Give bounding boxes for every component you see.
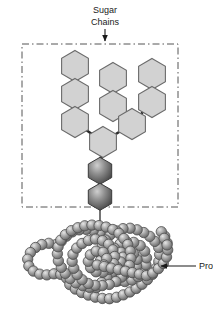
protein-label: Protein [199,261,213,271]
protein-residue-bead [162,240,172,250]
glycoprotein-diagram: Sugar Chains [0,0,213,319]
figure-canvas: Sugar Chains [0,0,213,319]
sugar-chains-label-line1: Sugar [93,5,117,15]
sugar-chains-label-line2: Chains [91,17,120,27]
